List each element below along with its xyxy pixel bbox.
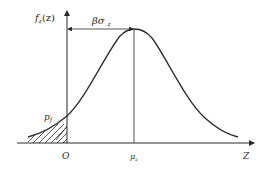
beta-sigma-label: βσz bbox=[91, 15, 112, 27]
origin-label: O bbox=[62, 151, 70, 161]
pdf-curve bbox=[28, 29, 238, 137]
y-axis-label: fz(z) bbox=[34, 12, 55, 24]
x-axis-label: Z bbox=[242, 151, 250, 161]
mean-label: μz bbox=[130, 152, 138, 162]
failure-region-hatch bbox=[20, 110, 88, 150]
pf-label: pf bbox=[44, 112, 54, 124]
distribution-diagram: fz(z) βσz pf O μz Z bbox=[0, 0, 269, 169]
